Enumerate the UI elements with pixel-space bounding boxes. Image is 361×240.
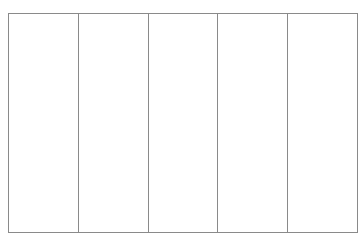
grid-column-5 bbox=[288, 14, 357, 232]
grid-column-3 bbox=[149, 14, 219, 232]
empty-grid bbox=[8, 13, 358, 233]
grid-column-1 bbox=[9, 14, 79, 232]
grid-column-2 bbox=[79, 14, 149, 232]
grid-column-4 bbox=[218, 14, 288, 232]
